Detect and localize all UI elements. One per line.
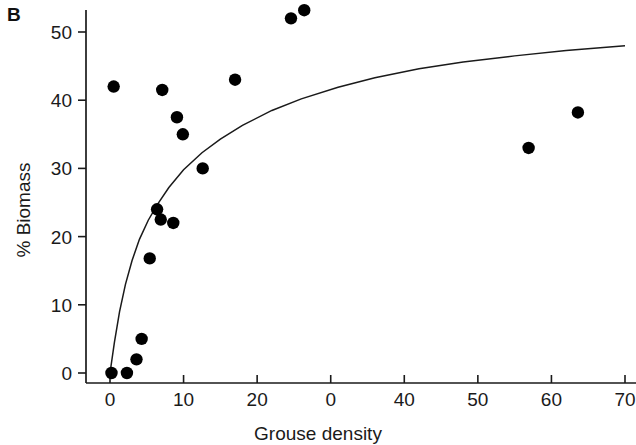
x-tick-label: 0 — [325, 389, 336, 410]
data-point — [285, 12, 297, 24]
data-point — [572, 106, 584, 118]
data-point — [155, 213, 167, 225]
data-point — [144, 252, 156, 264]
y-tick-label: 20 — [51, 227, 72, 248]
data-point — [197, 162, 209, 174]
x-tick-label: 40 — [394, 389, 415, 410]
data-point — [130, 353, 142, 365]
fit-curve-path — [110, 46, 625, 373]
data-point — [107, 80, 119, 92]
x-axis-ticks: 01020040506070 — [105, 375, 636, 410]
data-point — [171, 111, 183, 123]
fitted-curve — [110, 46, 625, 373]
data-point — [167, 217, 179, 229]
y-tick-label: 0 — [61, 363, 72, 384]
data-point — [522, 142, 534, 154]
data-point — [105, 367, 117, 379]
scatter-plot: 01020304050 01020040506070 Grouse densit… — [0, 0, 636, 445]
x-tick-label: 10 — [173, 389, 194, 410]
data-point — [298, 4, 310, 16]
x-tick-label: 0 — [105, 389, 116, 410]
x-tick-label: 20 — [247, 389, 268, 410]
figure-panel: B 01020304050 01020040506070 Grouse dens… — [0, 0, 636, 445]
y-tick-label: 40 — [51, 90, 72, 111]
x-axis-title: Grouse density — [254, 423, 382, 444]
y-tick-label: 50 — [51, 22, 72, 43]
x-tick-label: 70 — [614, 389, 635, 410]
y-tick-label: 30 — [51, 158, 72, 179]
data-point — [229, 74, 241, 86]
data-points — [105, 4, 584, 379]
y-axis-ticks: 01020304050 — [51, 22, 86, 384]
data-point — [121, 367, 133, 379]
data-point — [156, 84, 168, 96]
data-point — [135, 333, 147, 345]
y-tick-label: 10 — [51, 295, 72, 316]
data-point — [177, 128, 189, 140]
axes — [86, 10, 636, 383]
x-tick-label: 60 — [541, 389, 562, 410]
y-axis-title: % Biomass — [13, 162, 34, 257]
x-tick-label: 50 — [467, 389, 488, 410]
